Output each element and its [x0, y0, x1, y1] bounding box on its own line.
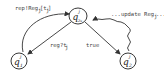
edge-true: [85, 22, 120, 54]
svg-text:]: ]: [48, 5, 51, 11]
label-true: true: [86, 42, 99, 48]
svg-text:2: 2: [128, 63, 132, 68]
svg-text:...: ...: [156, 11, 164, 17]
label-update-reg: ...update Reg j ...: [111, 11, 164, 20]
label-reg-t: reg?t j: [50, 42, 68, 51]
svg-text:2s: 2s: [77, 19, 82, 23]
node-center: q j 2s: [69, 8, 87, 24]
state-diagram: q j 2s q j 1 q j 2 rep!Reg j [t j ] reg?…: [0, 0, 164, 77]
node-left: q j 1: [11, 53, 27, 69]
label-rep-reg: rep!Reg j [t j ]: [15, 5, 51, 14]
svg-text:rep!Reg: rep!Reg: [15, 5, 38, 12]
svg-text:1: 1: [20, 63, 23, 68]
svg-text:j: j: [65, 44, 68, 51]
svg-text:...update Reg: ...update Reg: [111, 11, 154, 18]
node-right: q j 2: [120, 53, 136, 69]
